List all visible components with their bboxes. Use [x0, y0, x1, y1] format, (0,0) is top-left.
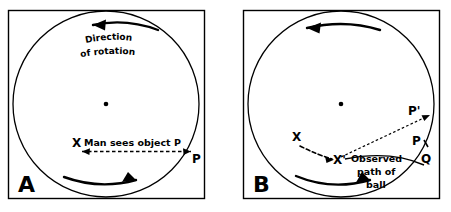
panel-b-point-label-p-prime: P': [408, 104, 420, 118]
panel-b-observed-path-line1: Observed: [351, 153, 402, 164]
panel-a-observer-marker-x: X: [72, 136, 82, 150]
figure-svg: Direction of rotation X Man sees object …: [0, 0, 451, 212]
panel-b-letter: B: [253, 172, 270, 197]
panel-b-point-label-q: Q: [421, 152, 431, 166]
panel-a-letter: A: [18, 172, 35, 197]
panel-b-point-label-x-prime: X': [333, 153, 346, 167]
panel-a-man-sees-object-caption: Man sees object P: [84, 137, 181, 148]
panel-b-center-dot: [339, 102, 344, 107]
panel-b-point-label-p: P: [412, 134, 421, 148]
panel-b-point-label-x: X: [292, 130, 302, 144]
panel-a-center-dot: [104, 102, 109, 107]
panel-a-point-label-p: P: [192, 152, 201, 166]
panel-b: X X' P' P Q Observed: [244, 11, 440, 199]
figure-container: Direction of rotation X Man sees object …: [0, 0, 451, 212]
panel-a: Direction of rotation X Man sees object …: [9, 11, 205, 199]
